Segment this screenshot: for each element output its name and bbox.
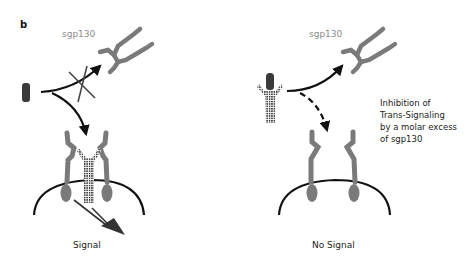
gp130-anchor-right-a	[307, 184, 318, 202]
il6-ligand-icon	[22, 83, 30, 102]
signal-arrow-icon	[74, 200, 125, 235]
gp130-receptor-left-b	[100, 133, 107, 182]
left-panel	[22, 29, 152, 235]
dashed-arrow-to-receptor	[300, 93, 327, 130]
panel-label: b	[20, 19, 27, 30]
gp130-anchor-right-b	[349, 184, 360, 202]
cell-membrane-right	[279, 180, 390, 215]
sgp130-molecule-right	[343, 29, 395, 72]
inhibition-note: Inhibition of Trans-Signaling by a molar…	[380, 97, 475, 145]
gp130-receptor-left-a	[67, 133, 74, 182]
inhibition-note-line-3: by a molar excess	[380, 121, 475, 133]
inhibition-note-line-1: Inhibition of	[380, 97, 475, 109]
il6-sil6r-complex-icon	[257, 73, 283, 123]
gp130-receptor-right-a	[311, 132, 318, 182]
outcome-label-no-signal: No Signal	[312, 240, 355, 250]
sgp130-label-right: sgp130	[309, 29, 342, 39]
arrow-to-sgp130-blocked	[41, 66, 100, 92]
arrow-to-receptor	[52, 93, 86, 134]
gp130-anchor-left-b	[102, 184, 113, 202]
gp130-receptor-right-b	[347, 132, 355, 182]
inhibition-note-line-4: of sgp130	[380, 133, 475, 145]
inhibition-note-line-2: Trans-Signaling	[380, 109, 475, 121]
il6-receptor-complex	[77, 148, 101, 203]
outcome-label-signal: Signal	[73, 240, 101, 250]
sgp130-molecule-left	[100, 29, 152, 72]
right-panel	[257, 29, 395, 215]
sgp130-label-left: sgp130	[62, 29, 95, 39]
gp130-anchor-left-a	[61, 184, 72, 202]
arrow-to-sgp130	[287, 66, 342, 91]
